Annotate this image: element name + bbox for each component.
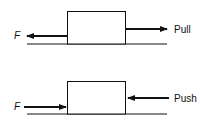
block xyxy=(68,12,126,45)
friction-label: F xyxy=(14,101,21,112)
push-diagram: F Push xyxy=(14,82,197,115)
block xyxy=(68,82,126,115)
friction-label: F xyxy=(14,30,21,41)
pull-label: Pull xyxy=(174,24,191,35)
push-label: Push xyxy=(174,93,197,104)
pull-diagram: F Pull xyxy=(14,12,191,45)
force-diagrams: F Pull F Push xyxy=(0,0,201,129)
